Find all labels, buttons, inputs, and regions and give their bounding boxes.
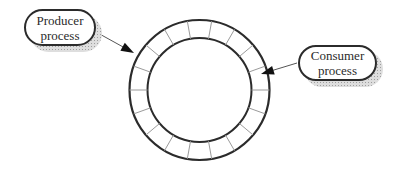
buffer-inner-circle <box>148 38 252 142</box>
consumer-label-line1: Consumer <box>311 48 364 63</box>
consumer-node: Consumer process <box>298 45 377 81</box>
producer-label-line1: Producer <box>37 13 84 28</box>
producer-label-line2: process <box>41 28 80 43</box>
diagram-canvas: Producer process Consumer process <box>0 0 397 170</box>
consumer-label-line2: process <box>318 63 357 78</box>
producer-arrow-head-icon <box>120 43 134 53</box>
consumer-arrow-line <box>270 63 297 71</box>
producer-node: Producer process <box>24 9 96 46</box>
